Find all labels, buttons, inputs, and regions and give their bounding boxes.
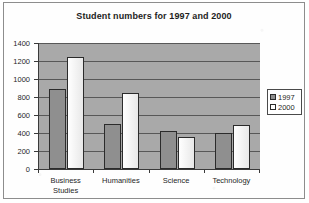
x-axis-category-label: Technology (212, 176, 250, 186)
x-axis-tick-mark (38, 169, 39, 173)
x-axis-category-label: Humanities (102, 176, 140, 186)
y-axis-tick-label: 800 (17, 93, 30, 102)
bar-2000-science (178, 137, 195, 169)
bar-2000-technology (233, 125, 250, 169)
x-axis-tick-mark (204, 169, 205, 173)
x-axis-tick-mark (93, 169, 94, 173)
bar-2000-business-studies (67, 57, 84, 170)
y-axis-tick-label: 1200 (13, 57, 30, 66)
chart-title: Student numbers for 1997 and 2000 (4, 11, 304, 21)
legend-item-2000[interactable]: 2000 (270, 102, 299, 112)
bar-1997-science (160, 131, 177, 169)
legend-label: 1997 (278, 93, 295, 102)
legend-swatch-icon (270, 94, 276, 100)
y-axis-tick-label: 200 (17, 147, 30, 156)
y-axis: 1400120010008006004002000 (4, 43, 34, 169)
legend-label: 2000 (278, 103, 295, 112)
legend-swatch-icon (270, 104, 276, 110)
y-axis-tick-label: 0 (26, 165, 30, 174)
plot-area (38, 43, 260, 170)
y-axis-tick-label: 600 (17, 111, 30, 120)
bar-2000-humanities (122, 93, 139, 169)
y-axis-tick-label: 400 (17, 129, 30, 138)
y-axis-tick-label: 1400 (13, 39, 30, 48)
x-axis-tick-mark (259, 169, 260, 173)
bar-1997-humanities (104, 124, 121, 169)
x-axis-category-label: Science (163, 176, 190, 186)
y-axis-tick-label: 1000 (13, 75, 30, 84)
x-axis-tick-mark (149, 169, 150, 173)
bar-1997-business-studies (49, 89, 66, 169)
bar-1997-technology (215, 133, 232, 169)
x-axis: Business StudiesHumanitiesScienceTechnol… (38, 173, 259, 203)
legend-item-1997[interactable]: 1997 (270, 92, 299, 102)
chart-legend: 19972000 (267, 89, 302, 115)
x-axis-category-label: Business Studies (50, 176, 80, 196)
chart-frame: Student numbers for 1997 and 2000 140012… (3, 2, 305, 199)
gridline (39, 43, 260, 44)
